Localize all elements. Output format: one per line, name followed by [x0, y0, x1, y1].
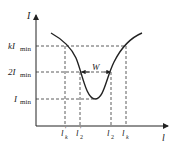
y-label-imin: I min — [13, 94, 31, 106]
resonance-curve-diagram: W I l kI min 2I min I min l ′ k l ′ 2 l … — [0, 0, 182, 145]
y-label-kimin: kI min — [8, 41, 31, 53]
width-label: W — [92, 62, 101, 72]
x-label-l2-prime: l ′ 2 — [76, 126, 83, 140]
y-label-2imin: 2I min — [8, 67, 31, 79]
svg-text:l: l — [76, 128, 79, 138]
x-label-lk-prime: l ′ k — [61, 126, 68, 140]
svg-text:min: min — [20, 98, 31, 106]
svg-text:min: min — [20, 45, 31, 53]
svg-text:′: ′ — [80, 126, 82, 132]
x-axis-label: l — [162, 132, 165, 143]
svg-text:l: l — [107, 128, 110, 138]
y-axis-label: I — [26, 10, 31, 21]
svg-text:l: l — [122, 128, 125, 138]
svg-text:2: 2 — [80, 134, 83, 140]
svg-text:2: 2 — [111, 134, 114, 140]
svg-text:2I: 2I — [8, 67, 17, 77]
svg-text:l: l — [61, 128, 64, 138]
svg-text:min: min — [20, 71, 31, 79]
svg-text:k: k — [126, 134, 129, 140]
svg-text:I: I — [13, 94, 18, 104]
x-label-lk: l k — [122, 128, 129, 140]
svg-text:kI: kI — [8, 41, 16, 51]
svg-text:k: k — [65, 134, 68, 140]
svg-text:′: ′ — [65, 126, 67, 132]
x-label-l2: l 2 — [107, 128, 114, 140]
